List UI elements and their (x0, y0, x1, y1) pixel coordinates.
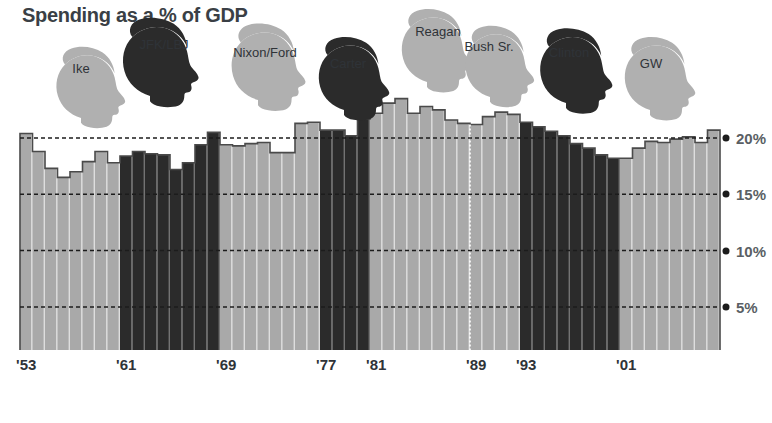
y-axis-tick-label: 10% (736, 242, 766, 259)
bar-separator (631, 158, 632, 350)
bar (458, 123, 471, 350)
bar (508, 114, 521, 350)
bar-separator (331, 130, 332, 350)
bar-separator (94, 162, 95, 350)
bar-separator (131, 156, 132, 350)
bar-separator (356, 136, 357, 350)
bar-separator (406, 99, 407, 350)
bar (395, 99, 408, 350)
bar (208, 132, 221, 350)
president-label-jfk-lbj: JFK/LBJ (139, 37, 188, 52)
bar-separator (81, 172, 82, 350)
bar (308, 122, 321, 350)
president-label-nixon-ford: Nixon/Ford (233, 45, 297, 60)
bar-separator (444, 110, 445, 350)
bar (245, 144, 258, 350)
bar-separator (256, 144, 257, 350)
bar (570, 144, 583, 350)
bar (583, 148, 596, 350)
bar-separator (119, 163, 120, 350)
bar-separator (431, 106, 432, 350)
bar-separator (694, 137, 695, 350)
bar-separator (144, 152, 145, 350)
bar-separator (344, 130, 345, 350)
bar (683, 137, 696, 350)
y-tick-dot (723, 135, 730, 142)
y-axis-tick-label: 5% (736, 298, 758, 315)
bar-separator (169, 155, 170, 350)
bar (545, 131, 558, 350)
bar (520, 122, 533, 350)
bar-separator (506, 112, 507, 350)
bar-separator (569, 136, 570, 350)
president-label-ike: Ike (72, 61, 89, 76)
bar (658, 143, 671, 350)
bar-separator (56, 168, 57, 350)
president-label-gw: GW (640, 56, 662, 71)
bar (70, 172, 83, 350)
x-axis-tick-label: '53 (16, 356, 36, 373)
bar (445, 120, 458, 350)
bar (233, 146, 246, 350)
bar (420, 106, 433, 350)
bar-separator (606, 155, 607, 350)
bar-separator (419, 113, 420, 350)
bar-separator (206, 145, 207, 350)
bar-separator (556, 131, 557, 350)
bar-separator (519, 114, 520, 350)
bar-separator (531, 122, 532, 350)
y-axis-tick-label: 20% (736, 130, 766, 147)
bar-separator (481, 124, 482, 350)
bar (220, 145, 233, 350)
bar-separator (619, 158, 620, 350)
bar (470, 124, 483, 350)
bar (533, 127, 546, 350)
bar (595, 155, 608, 350)
x-axis-tick-label: '61 (116, 356, 136, 373)
bar-separator (244, 146, 245, 350)
bar-separator (544, 127, 545, 350)
bar-separator (644, 148, 645, 350)
bar (370, 113, 383, 350)
bar (83, 162, 96, 350)
president-label-clinton: Clinton (549, 45, 589, 60)
bar (20, 133, 33, 350)
bar-separator (494, 117, 495, 350)
bar (558, 136, 571, 350)
x-axis-tick-label: '89 (466, 356, 486, 373)
bar (258, 143, 271, 350)
bar (45, 168, 58, 350)
bar (333, 130, 346, 350)
bar (195, 145, 208, 350)
silhouette-layer (56, 9, 695, 128)
bar (295, 123, 308, 350)
bar-separator (306, 123, 307, 350)
bar-separator (31, 133, 32, 350)
bar-separator (706, 143, 707, 350)
bar (158, 155, 171, 350)
bar (620, 158, 633, 350)
bar (58, 177, 71, 350)
bar (695, 143, 708, 350)
bar-separator (656, 141, 657, 350)
bar-separator (181, 170, 182, 350)
bar (633, 148, 646, 350)
bar (345, 136, 358, 350)
y-tick-dot (723, 191, 730, 198)
bar (670, 139, 683, 350)
president-label-reagan: Reagan (415, 24, 461, 39)
bar (433, 110, 446, 350)
y-tick-dot (723, 247, 730, 254)
chart-root: Spending as a % of GDP IkeJFK/LBJNixon/F… (0, 0, 772, 423)
x-axis-tick-label: '81 (366, 356, 386, 373)
president-label-bush-sr: Bush Sr. (464, 39, 513, 54)
bar-separator (69, 177, 70, 350)
bar (108, 163, 121, 350)
bar (320, 130, 333, 350)
bar (408, 113, 421, 350)
x-axis-tick-label: '69 (216, 356, 236, 373)
bar-separator (681, 139, 682, 350)
bar (708, 130, 721, 350)
bar-separator (194, 163, 195, 350)
y-tick-dot (723, 303, 730, 310)
